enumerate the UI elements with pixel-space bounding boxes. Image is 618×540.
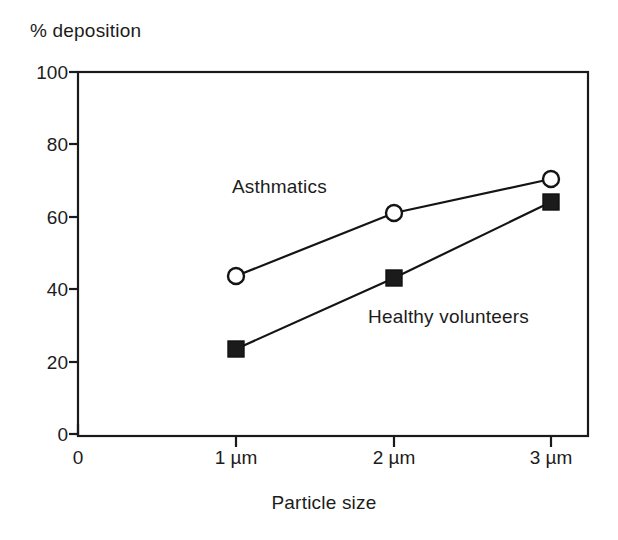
data-point-healthy-2um	[386, 270, 402, 286]
y-tick-marks	[69, 72, 78, 434]
chart-figure: % deposition 100 80 60 40 20 0 0 1 µm 2 …	[0, 0, 618, 540]
plot-frame	[78, 72, 588, 436]
data-point-healthy-3um	[543, 194, 559, 210]
data-point-asthmatics-1um	[228, 268, 244, 284]
data-point-asthmatics-2um	[386, 205, 402, 221]
x-axis-title-text: Particle size	[271, 492, 376, 514]
x-axis-title: Particle size	[0, 492, 618, 514]
plot-canvas	[0, 0, 618, 540]
data-point-healthy-1um	[228, 341, 244, 357]
series-label-asthmatics: Asthmatics	[232, 176, 327, 198]
data-point-asthmatics-3um	[543, 171, 559, 187]
series-label-healthy: Healthy volunteers	[368, 306, 529, 328]
